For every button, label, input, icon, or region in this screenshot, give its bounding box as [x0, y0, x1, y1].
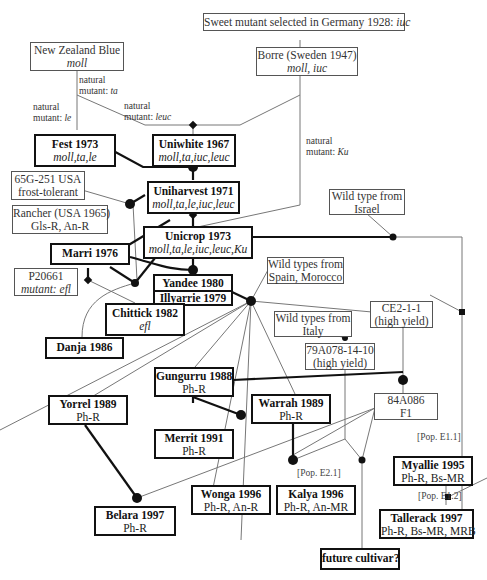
node-wild-italy: Wild types from Italy — [274, 311, 352, 337]
node-rancher: Rancher (USA 1965) Gls-R, An-R — [12, 205, 108, 234]
node-unicrop: Unicrop 1973 moll,ta,le,iuc,leuc,Ku — [143, 226, 253, 259]
node-genes: moll — [31, 57, 123, 70]
label-pop-e1-1: [Pop. E1.1] — [417, 432, 461, 442]
label-mutant-ta: natural mutant: ta — [79, 75, 118, 97]
node-chittick: Chittick 1982 efl — [105, 303, 185, 336]
node-uniharvest: Uniharvest 1971 moll,ta,le,iuc,leuc — [147, 181, 240, 214]
node-warrah: Warrah 1989 Ph-R — [251, 394, 331, 424]
node-danja: Danja 1986 — [45, 337, 124, 359]
node-wild-spain-morocco: Wild types from Spain, Morocco — [267, 257, 344, 284]
label-mutant-leuc: natural mutant: leuc — [124, 101, 171, 123]
node-gungurru: Gungurru 1988 Ph-R — [154, 367, 234, 397]
node-tallerack: Tallerack 1997 Ph-R, Bs-MR, MRB — [379, 509, 474, 539]
node-genes: iuc — [396, 16, 410, 28]
node-name: New Zealand Blue — [31, 44, 123, 57]
node-yorrel: Yorrel 1989 Ph-R — [48, 395, 128, 425]
node-future-cultivar: future cultivar? — [320, 548, 400, 570]
node-genes: moll, iuc — [257, 62, 357, 75]
node-yandee-illyarrie: Yandee 1980 Illyarrie 1979 — [153, 274, 233, 306]
node-uniwhite: Uniwhite 1967 moll,ta,iuc,leuc — [152, 134, 236, 167]
node-kalya: Kalya 1996 Ph-R, An-MR — [276, 485, 356, 515]
node-wonga: Wonga 1996 Ph-R, An-R — [191, 485, 271, 515]
node-fest: Fest 1973 moll,ta,le — [34, 134, 116, 167]
node-wild-israel: Wild type from Israel — [329, 189, 405, 215]
label-mutant-ku: natural mutant: Ku — [306, 136, 349, 158]
label-mutant-le: natural mutant: le — [33, 102, 71, 124]
node-myallie: Myallie 1995 Ph-R, Bs-MR — [393, 456, 473, 486]
node-84a086: 84A086 F1 — [374, 393, 438, 420]
label-pop-e2-1: [Pop. E2.1] — [297, 468, 341, 478]
node-marri: Marri 1976 — [50, 243, 130, 265]
node-new-zealand-blue: New Zealand Blue moll — [30, 42, 124, 71]
node-name: Borre (Sweden 1947) — [257, 49, 357, 62]
node-65g-251: 65G-251 USA frost-tolerant — [11, 171, 85, 200]
label-pop-e1-2: [Pop. E1.2] — [418, 491, 462, 501]
node-name: Sweet mutant selected in Germany 1928: — [204, 16, 393, 28]
node-belara: Belara 1997 Ph-R — [94, 506, 176, 536]
node-ce2-1-1: CE2-1-1 (high yield) — [370, 301, 433, 328]
node-sweet-mutant: Sweet mutant selected in Germany 1928: i… — [203, 13, 405, 31]
node-borre: Borre (Sweden 1947) moll, iuc — [256, 47, 358, 76]
node-merrit: Merrit 1991 Ph-R — [154, 429, 234, 459]
node-79a078: 79A078-14-10 (high yield) — [305, 343, 375, 370]
node-p20661: P20661 mutant: efl — [14, 268, 78, 296]
